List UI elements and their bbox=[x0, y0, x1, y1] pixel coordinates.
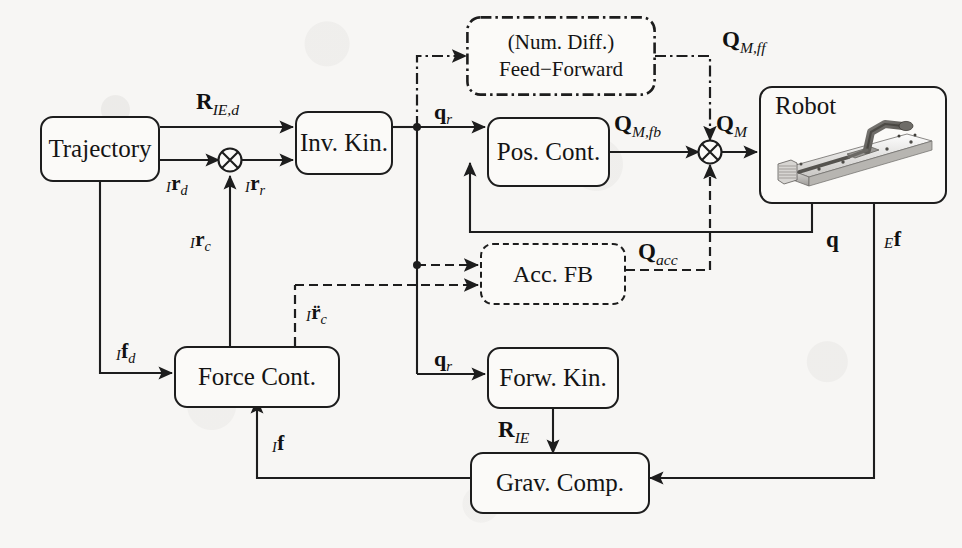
block-robot[interactable]: Robot bbox=[759, 86, 947, 204]
signal-label-R-IE-d: RIE,d bbox=[196, 90, 239, 117]
signal-label-rddot-c: Ir̈c bbox=[306, 302, 327, 326]
signal-label-f-d: Ifd bbox=[116, 341, 135, 365]
wire-feedforward-to-sumright bbox=[655, 56, 710, 140]
wire-trajectory-to-forcecont bbox=[100, 182, 172, 373]
robot-photo bbox=[775, 114, 935, 188]
junction-dot-invkin bbox=[413, 123, 421, 131]
signal-label-E-f: Ef bbox=[884, 228, 901, 251]
block-forw-kin[interactable]: Forw. Kin. bbox=[487, 347, 619, 409]
block-grav-comp-label: Grav. Comp. bbox=[496, 469, 624, 497]
block-grav-comp[interactable]: Grav. Comp. bbox=[470, 452, 650, 514]
signal-label-Q-M-fb: QM,fb bbox=[614, 112, 661, 139]
block-feed-forward-label-line1: (Num. Diff.) bbox=[508, 29, 614, 56]
signal-label-Q-M: QM bbox=[716, 112, 747, 139]
block-inv-kin-label: Inv. Kin. bbox=[300, 129, 388, 157]
sub-IE-d: IE,d bbox=[213, 101, 239, 118]
block-force-cont-label: Force Cont. bbox=[198, 363, 316, 391]
block-pos-cont[interactable]: Pos. Cont. bbox=[487, 117, 610, 187]
signal-label-r-d: Ird bbox=[166, 173, 188, 197]
wire-gravcomp-to-forcecont bbox=[257, 400, 470, 478]
block-trajectory-label: Trajectory bbox=[48, 135, 151, 163]
block-feed-forward[interactable]: (Num. Diff.) Feed−Forward bbox=[466, 16, 656, 96]
sum-junction-right bbox=[699, 141, 722, 164]
block-feed-forward-label-line2: Feed−Forward bbox=[499, 56, 623, 83]
block-forw-kin-label: Forw. Kin. bbox=[499, 364, 606, 392]
signal-label-Q-M-ff: QM,ff bbox=[722, 28, 766, 55]
signal-label-I-f: If bbox=[272, 433, 284, 454]
signal-label-q: q bbox=[826, 228, 839, 251]
block-force-cont[interactable]: Force Cont. bbox=[174, 346, 340, 408]
signal-label-Q-acc: Qacc bbox=[638, 240, 678, 267]
block-acc-fb-label: Acc. FB bbox=[513, 261, 593, 288]
signal-label-q-r-bottom: qr bbox=[434, 348, 452, 374]
block-inv-kin[interactable]: Inv. Kin. bbox=[295, 111, 393, 175]
signal-label-r-r: Irr bbox=[245, 173, 265, 197]
block-pos-cont-label: Pos. Cont. bbox=[497, 138, 601, 166]
signal-label-r-c: Irc bbox=[190, 229, 211, 253]
block-diagram-canvas: Trajectory Inv. Kin. (Num. Diff.) Feed−F… bbox=[0, 0, 962, 548]
wire-robot-force-to-gravcomp bbox=[650, 204, 874, 478]
sum-junction-left bbox=[219, 149, 242, 172]
junction-dot-accfb bbox=[413, 261, 421, 269]
block-acc-fb[interactable]: Acc. FB bbox=[480, 243, 626, 305]
signal-label-q-r-top: qr bbox=[434, 101, 452, 127]
block-trajectory[interactable]: Trajectory bbox=[40, 116, 160, 182]
signal-label-R-IE: RIE bbox=[498, 418, 529, 445]
block-robot-label: Robot bbox=[775, 92, 836, 120]
